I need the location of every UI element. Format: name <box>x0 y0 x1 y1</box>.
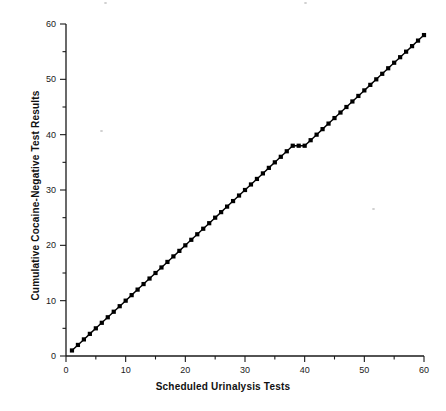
chart-canvas <box>0 0 446 411</box>
chart-page: 01020304050600102030405060 Cumulative Co… <box>0 0 446 411</box>
y-axis-title: Cumulative Cocaine-Negative Test Results <box>30 66 41 326</box>
x-tick-label: 30 <box>240 365 250 375</box>
y-tick-label: 0 <box>34 351 56 361</box>
x-tick-label: 10 <box>121 365 131 375</box>
x-tick-label: 20 <box>180 365 190 375</box>
y-tick-label: 60 <box>34 19 56 29</box>
x-axis-title: Scheduled Urinalysis Tests <box>0 381 446 392</box>
x-tick-label: 40 <box>300 365 310 375</box>
data-series <box>70 33 426 353</box>
x-tick-label: 0 <box>63 365 68 375</box>
x-tick-label: 60 <box>419 365 429 375</box>
x-tick-label: 50 <box>359 365 369 375</box>
